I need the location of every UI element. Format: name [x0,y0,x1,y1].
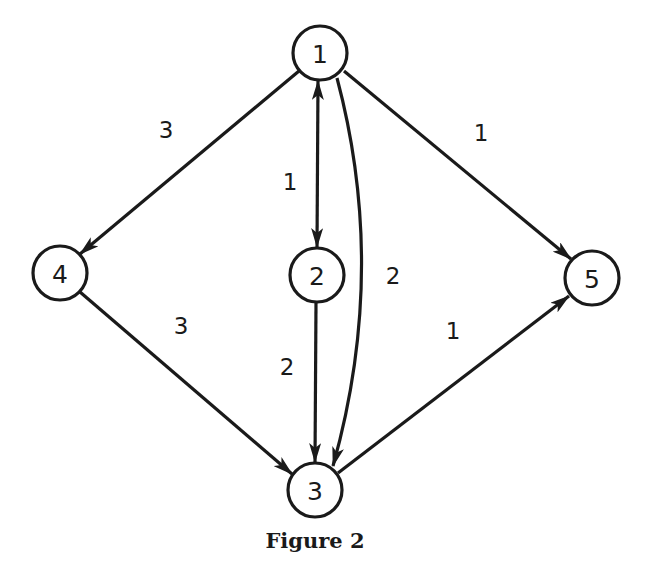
edge-weight-1-5: 1 [474,120,489,146]
node-4-label: 4 [52,260,68,289]
edge-1-to-2-bidirectional [317,81,318,247]
node-1: 1 [293,26,347,80]
edge-weight-1-4: 3 [159,117,174,143]
edge-1-to-4 [80,71,299,254]
node-4: 4 [33,246,87,300]
edge-weight-1-2: 1 [283,169,298,195]
edge-2-to-3 [315,303,316,462]
node-3-label: 3 [307,477,323,506]
network-graph-diagram: 3 1 2 1 2 3 1 1 2 3 4 5 [0,0,645,565]
node-2-label: 2 [309,262,325,291]
edge-weight-4-3: 3 [174,313,189,339]
node-1-label: 1 [312,40,328,69]
node-3: 3 [288,463,342,517]
edge-weight-2-3: 2 [280,354,295,380]
edge-1-to-5 [344,71,571,259]
edge-weight-3-5: 1 [446,318,461,344]
node-2: 2 [290,248,344,302]
figure-caption: Figure 2 [0,528,630,553]
node-5-label: 5 [584,265,600,294]
node-5: 5 [565,251,619,305]
edge-weight-1-3: 2 [386,263,401,289]
